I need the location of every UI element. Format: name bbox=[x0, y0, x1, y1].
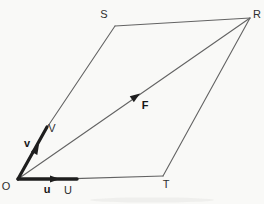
vector-parallelogram-figure: S R O T V U v u F bbox=[0, 0, 264, 204]
vertex-label-R: R bbox=[253, 8, 261, 20]
vector-label-u: u bbox=[44, 183, 51, 195]
vector-label-v: v bbox=[24, 137, 31, 149]
scan-smudge bbox=[90, 197, 214, 202]
paper-background bbox=[0, 0, 264, 204]
vertex-label-T: T bbox=[163, 178, 170, 190]
vertex-label-U: U bbox=[64, 184, 72, 196]
diagram-canvas: S R O T V U v u F bbox=[0, 0, 264, 204]
vertex-label-S: S bbox=[100, 8, 107, 20]
vertex-label-V: V bbox=[48, 122, 56, 134]
vector-label-F: F bbox=[142, 99, 149, 111]
vertex-label-O: O bbox=[2, 180, 11, 192]
